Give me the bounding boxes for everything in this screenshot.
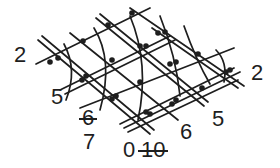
- label-right-5: 5: [212, 108, 224, 130]
- lattice-diagram: [0, 0, 280, 168]
- label-bottom-0: 0: [123, 139, 135, 161]
- label-left-5: 5: [51, 86, 63, 108]
- label-left-6-struck: 6: [82, 107, 94, 129]
- label-bottom-10-struck: 10: [141, 139, 165, 161]
- label-bottom-7: 7: [83, 131, 95, 153]
- label-left-2: 2: [14, 44, 26, 66]
- label-right-2: 2: [251, 62, 263, 84]
- label-right-6: 6: [180, 121, 192, 143]
- grid-lines-ascending: [36, 8, 240, 132]
